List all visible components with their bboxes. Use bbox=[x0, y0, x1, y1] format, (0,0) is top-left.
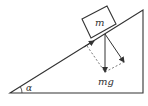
weight-label: mg bbox=[98, 76, 114, 87]
angle-label: α bbox=[26, 83, 32, 93]
dashed-perpendicular bbox=[105, 62, 124, 72]
normal-component-arrow bbox=[105, 34, 124, 62]
incline-diagram: m mg α bbox=[0, 0, 148, 106]
dashed-parallel bbox=[87, 46, 105, 72]
mass-label: m bbox=[95, 17, 104, 28]
angle-arc bbox=[21, 87, 23, 93]
incline-triangle bbox=[10, 10, 143, 93]
incline-arrow bbox=[84, 41, 94, 47]
